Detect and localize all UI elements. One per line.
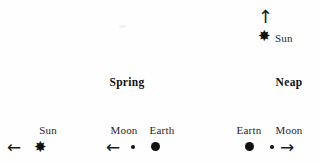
neap-moon-label: Moon bbox=[275, 124, 302, 136]
spring-sun-label: Sun bbox=[39, 124, 57, 136]
neap-moon-body-dot bbox=[270, 145, 274, 149]
spring-earth-body-dot bbox=[151, 142, 160, 151]
neap-earth-label: Eartn bbox=[237, 124, 262, 136]
neap-heading: Neap bbox=[276, 76, 303, 89]
scan-artifact bbox=[119, 25, 126, 28]
neap-sun-symbol-icon: ✸ bbox=[258, 29, 271, 44]
neap-sun-arrow-up-icon: ↑ bbox=[258, 8, 273, 26]
neap-earth-body-dot bbox=[245, 142, 254, 151]
neap-moon-arrow-right-icon: → bbox=[280, 139, 294, 156]
spring-moon-label: Moon bbox=[110, 124, 137, 136]
diagram-canvas: ↑ ✸ Sun Spring Neap Sun ← ✸ Moon ← Earth… bbox=[0, 0, 319, 162]
spring-sun-arrow-left-icon: ← bbox=[7, 139, 21, 156]
spring-moon-body-dot bbox=[131, 145, 135, 149]
spring-moon-arrow-left-icon: ← bbox=[106, 139, 120, 156]
spring-sun-symbol-icon: ✸ bbox=[34, 140, 47, 155]
spring-earth-label: Earth bbox=[150, 124, 175, 136]
spring-heading: Spring bbox=[109, 76, 144, 89]
neap-sun-label: Sun bbox=[275, 32, 293, 44]
